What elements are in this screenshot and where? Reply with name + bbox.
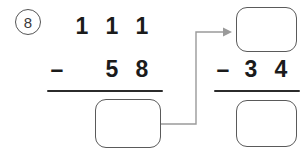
- problem-number-badge: 8: [15, 9, 41, 35]
- right-problem-minuend-box[interactable]: [236, 7, 297, 52]
- left-problem-answer-box[interactable]: [95, 99, 161, 148]
- right-subtrahend-digit-ones: 4: [271, 56, 291, 82]
- left-subtrahend-digit-ones: 8: [132, 56, 152, 82]
- left-minuend-digit-tens: 1: [102, 13, 122, 39]
- left-subtrahend-digit-tens: 5: [102, 56, 122, 82]
- right-subtrahend-digit-tens: 3: [241, 56, 261, 82]
- left-subtraction-operator: –: [47, 56, 67, 82]
- right-problem-rule: [214, 90, 300, 92]
- worksheet-canvas: 8 1 1 1 – 5 8 – 3 4: [0, 0, 307, 155]
- right-problem-answer-box[interactable]: [236, 100, 297, 147]
- left-minuend-digit-hundreds: 1: [72, 13, 92, 39]
- left-problem-rule: [47, 90, 163, 92]
- left-minuend-digit-ones: 1: [132, 13, 152, 39]
- right-subtraction-operator: –: [213, 56, 233, 82]
